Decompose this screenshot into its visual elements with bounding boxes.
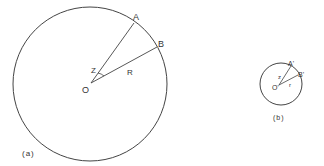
label-a: A <box>133 12 139 22</box>
label-o: O <box>82 85 89 95</box>
label-z: Z <box>91 66 96 75</box>
diagram-canvas: A B Z R O (a) A' B' z r O' (b) <box>0 0 324 166</box>
figure-a: A B Z R O (a) <box>13 7 167 161</box>
figure-b: A' B' z r O' (b) <box>260 60 304 122</box>
caption-b: (b) <box>273 114 285 122</box>
label-b-prime: B' <box>298 71 304 78</box>
label-o-prime: O' <box>272 84 279 91</box>
label-r: R <box>127 68 133 77</box>
large-circle <box>13 7 167 161</box>
radius-ob <box>91 47 157 83</box>
label-a-prime: A' <box>288 60 294 67</box>
caption-a: (a) <box>22 149 35 158</box>
label-r-small: r <box>289 82 291 88</box>
label-b: B <box>158 39 164 49</box>
label-z-small: z <box>278 74 281 80</box>
angle-arc-z <box>98 73 104 76</box>
